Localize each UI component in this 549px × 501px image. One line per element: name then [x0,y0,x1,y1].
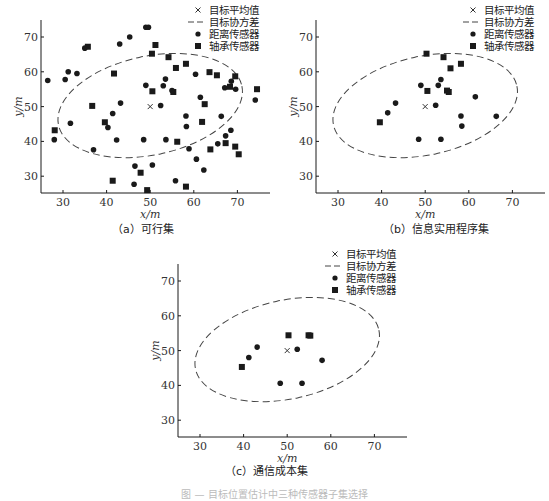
x-tick-label: 70 [505,196,519,209]
range-sensor-point [68,121,74,127]
y-tick-label: 40 [24,135,38,148]
covariance-ellipse [323,38,527,174]
range-sensor-point [459,123,465,129]
bearing-sensor-point [223,140,229,146]
range-sensor-point [385,110,391,116]
legend-label: 轴承传感器 [484,40,535,52]
panel-c: 30405060703040506070x/my/m目标平均值目标协方差距离传感… [137,244,412,474]
bearing-sensor-point [446,89,452,95]
bearing-sensor-point [307,333,313,339]
range-sensor-point [473,94,479,100]
scatter-plot-a: 30405060703040506070x/my/m目标平均值目标协方差距离传感… [0,0,275,230]
range-sensor-point [433,102,439,108]
y-axis-label: y/m [149,340,162,361]
y-axis-label: y/m [12,96,25,117]
bearing-sensor-point [232,144,238,150]
bearing-sensor-point [102,119,108,125]
range-sensor-point [254,344,260,350]
bearing-sensor-point [110,178,116,184]
bearing-sensor-point [174,139,180,145]
range-sensor-point [438,77,444,83]
bearing-sensor-point [149,88,155,94]
caption-b: （b）信息实用程序集 [383,220,489,236]
legend: 目标平均值目标协方差距离传感器轴承传感器 [325,248,397,296]
y-tick-label: 40 [161,379,175,392]
legend: 目标平均值目标协方差距离传感器轴承传感器 [188,4,260,52]
bearing-sensor-point [144,187,150,193]
range-sensor-point [184,124,190,130]
range-sensor-point [186,146,192,152]
range-sensor-point [110,111,116,117]
y-tick-label: 50 [161,345,175,358]
range-sensor-point [299,381,305,387]
range-sensor-point [218,114,224,120]
y-tick-label: 60 [24,66,38,79]
range-sensor-point [150,162,156,168]
legend-label: 目标协方差 [209,16,259,28]
range-sensor-point [435,83,441,89]
legend: 目标平均值目标协方差距离传感器轴承传感器 [463,4,535,52]
y-tick-label: 70 [24,31,38,44]
bearing-sensor-point [111,71,117,77]
y-tick-label: 60 [299,66,313,79]
range-sensor-point [493,114,499,120]
x-tick-label: 70 [367,440,381,453]
range-sensor-point [65,69,71,75]
y-tick-label: 30 [24,170,38,183]
y-tick-label: 50 [299,101,313,114]
y-tick-label: 40 [299,135,313,148]
range-sensor-point [105,125,111,131]
range-sensor-point [158,103,164,109]
legend-label: 距离传感器 [346,272,397,284]
legend-label: 距离传感器 [209,28,260,40]
covariance-ellipse [185,282,389,418]
legend-label: 目标平均值 [346,248,397,260]
y-axis-label: y/m [287,96,300,117]
legend-label: 距离传感器 [484,28,535,40]
x-tick-label: 60 [187,196,201,209]
bearing-sensor-point [149,51,155,57]
bearing-sensor-point [202,101,208,107]
bearing-sensor-point [206,69,212,75]
scatter-plot-c: 30405060703040506070x/my/m目标平均值目标协方差距离传感… [137,244,412,474]
bearing-sensor-point [152,42,158,48]
range-sensor-point [215,141,221,147]
range-sensor-point [45,78,51,84]
range-sensor-point [233,86,239,92]
y-tick-label: 30 [161,414,175,427]
range-sensor-point [91,147,97,153]
range-sensor-point [117,41,123,47]
legend-mean-icon [196,8,201,13]
range-sensor-point [51,137,57,143]
bearing-sensor-point [377,119,383,125]
target-mean-marker [148,104,153,109]
range-sensor-point [319,358,325,364]
legend-label: 目标协方差 [484,16,534,28]
bearing-sensor-point [254,86,260,92]
legend-bearing-icon [470,43,476,49]
range-sensor-point [146,24,152,30]
panel-a: 30405060703040506070x/my/m目标平均值目标协方差距离传感… [0,0,275,230]
range-sensor-point [163,137,169,143]
x-tick-label: 70 [230,196,244,209]
bearing-sensor-point [166,54,172,60]
range-sensor-point [198,94,204,100]
x-tick-label: 30 [56,196,70,209]
range-sensor-point [183,113,189,119]
range-sensor-point [114,137,120,143]
range-sensor-point [246,355,252,361]
range-sensor-point [438,137,444,143]
range-sensor-point [393,100,399,106]
target-mean-marker [423,104,428,109]
range-sensor-point [222,85,228,91]
bearing-sensor-point [286,332,292,338]
caption-c: （c）通信成本集 [225,462,308,478]
range-sensor-point [173,178,179,184]
legend-mean-icon [333,252,338,257]
range-sensor-point [62,77,68,83]
range-sensor-point [416,137,422,143]
legend-label: 目标平均值 [484,4,535,16]
range-sensor-point [132,163,138,169]
range-sensor-point [252,97,258,103]
legend-mean-icon [471,8,476,13]
